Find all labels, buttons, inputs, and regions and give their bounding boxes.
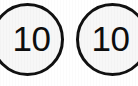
number-token-right[interactable]: 10 (76, 3, 138, 76)
number-token-left[interactable]: 10 (0, 3, 64, 76)
number-token-left-value: 10 (13, 21, 51, 56)
number-token-right-value: 10 (92, 21, 130, 56)
token-canvas: 10 10 (0, 0, 138, 86)
